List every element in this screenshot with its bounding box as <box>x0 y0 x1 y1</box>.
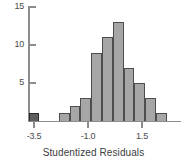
bar-bin-5 <box>102 37 113 121</box>
y-tick-label-15: 15 <box>2 2 24 11</box>
x-tick--1.0 <box>87 122 88 128</box>
bar-bin-outlier <box>29 113 40 121</box>
x-tick--3.5 <box>33 122 34 128</box>
bar-bin-2 <box>70 106 81 121</box>
bar-bin-8 <box>134 83 145 121</box>
bar-bin-4 <box>91 53 102 121</box>
x-tick-label--3.5: -3.5 <box>16 132 52 141</box>
y-axis-line <box>28 6 30 121</box>
y-tick-15 <box>30 6 36 7</box>
histogram-figure: 51015-3.5-1.01.5Studentized Residuals <box>0 0 187 162</box>
bar-bin-3 <box>80 98 91 121</box>
bar-bin-1 <box>59 113 70 121</box>
plot-area: 51015-3.5-1.01.5Studentized Residuals <box>0 0 187 162</box>
bar-bin-7 <box>124 68 135 121</box>
bar-bin-10 <box>156 113 167 121</box>
x-tick-label-1.5: 1.5 <box>124 132 160 141</box>
x-axis-line <box>28 121 181 122</box>
y-tick-label-10: 10 <box>2 40 24 49</box>
x-tick-label--1.0: -1.0 <box>70 132 106 141</box>
y-tick-10 <box>30 44 36 45</box>
x-tick-1.5 <box>141 122 142 128</box>
y-tick-label-5: 5 <box>2 78 24 87</box>
y-tick-5 <box>30 82 36 83</box>
x-axis-title: Studentized Residuals <box>0 147 187 158</box>
bar-bin-6 <box>113 22 124 121</box>
bar-bin-9 <box>145 98 156 121</box>
